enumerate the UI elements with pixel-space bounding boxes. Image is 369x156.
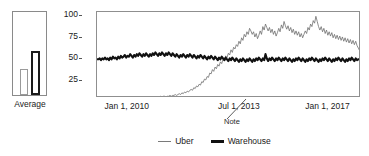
- legend-item-warehouse[interactable]: Warehouse: [211, 136, 271, 146]
- y-tick-mark: [79, 58, 82, 59]
- y-tick-label: 50: [69, 53, 78, 62]
- y-tick-mark: [79, 80, 82, 81]
- average-plot-box: [12, 11, 47, 96]
- screenshot-root: Average 100755025 Jan 1, 2010Jul 1, 2013…: [0, 0, 369, 156]
- note-annotation: Note: [224, 98, 294, 132]
- legend-label-uber: Uber: [175, 136, 193, 146]
- y-tick-label: 100: [64, 10, 78, 19]
- x-tick-label: Jan 1, 2017: [305, 101, 349, 111]
- y-tick-mark: [79, 15, 82, 16]
- x-tick-label: Jan 1, 2010: [105, 101, 149, 111]
- average-panel-label: Average: [0, 99, 60, 109]
- note-label: Note: [224, 117, 240, 126]
- legend-swatch-uber-icon: [158, 141, 171, 142]
- y-tick-label: 25: [69, 75, 78, 84]
- plot-area: [96, 11, 360, 97]
- chart-legend: Uber Warehouse: [60, 133, 369, 149]
- average-panel: Average: [0, 0, 60, 156]
- y-axis: 100755025: [60, 0, 83, 110]
- y-tick-label: 75: [69, 32, 78, 41]
- series-lines: [97, 12, 360, 97]
- average-bar-warehouse: [31, 51, 40, 95]
- legend-swatch-warehouse-icon: [211, 140, 224, 143]
- legend-item-uber[interactable]: Uber: [158, 136, 193, 146]
- legend-label-warehouse: Warehouse: [228, 136, 271, 146]
- average-bar-uber: [20, 69, 28, 95]
- y-tick-mark: [79, 37, 82, 38]
